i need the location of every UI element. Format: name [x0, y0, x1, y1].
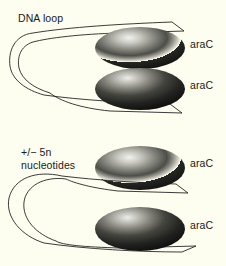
dna-looping-diagram: DNA loop +/− 5nnucleotides araC araC ara…: [0, 0, 226, 266]
nucleotides-label-line2: nucleotides: [21, 159, 75, 171]
arac-label-bottom-upper: araC: [190, 157, 213, 170]
nucleotides-label: +/− 5nnucleotides: [21, 146, 75, 171]
nucleotides-label-line1: +/− 5n: [21, 146, 51, 158]
top-panel-group: [10, 22, 185, 113]
arac-ellipse-1: [95, 27, 185, 69]
arac-ellipse-4: [95, 207, 185, 251]
dna-loop-top: [10, 33, 50, 95]
dna-loop-bottom: [8, 174, 66, 243]
arac-label-top-upper: araC: [190, 38, 213, 51]
arac-label-top-lower: araC: [190, 79, 213, 92]
arac-ellipse-2: [95, 68, 185, 110]
arac-ellipse-3: [95, 146, 185, 190]
dna-loop-label: DNA loop: [18, 12, 63, 25]
arac-label-bottom-lower: araC: [190, 219, 213, 232]
